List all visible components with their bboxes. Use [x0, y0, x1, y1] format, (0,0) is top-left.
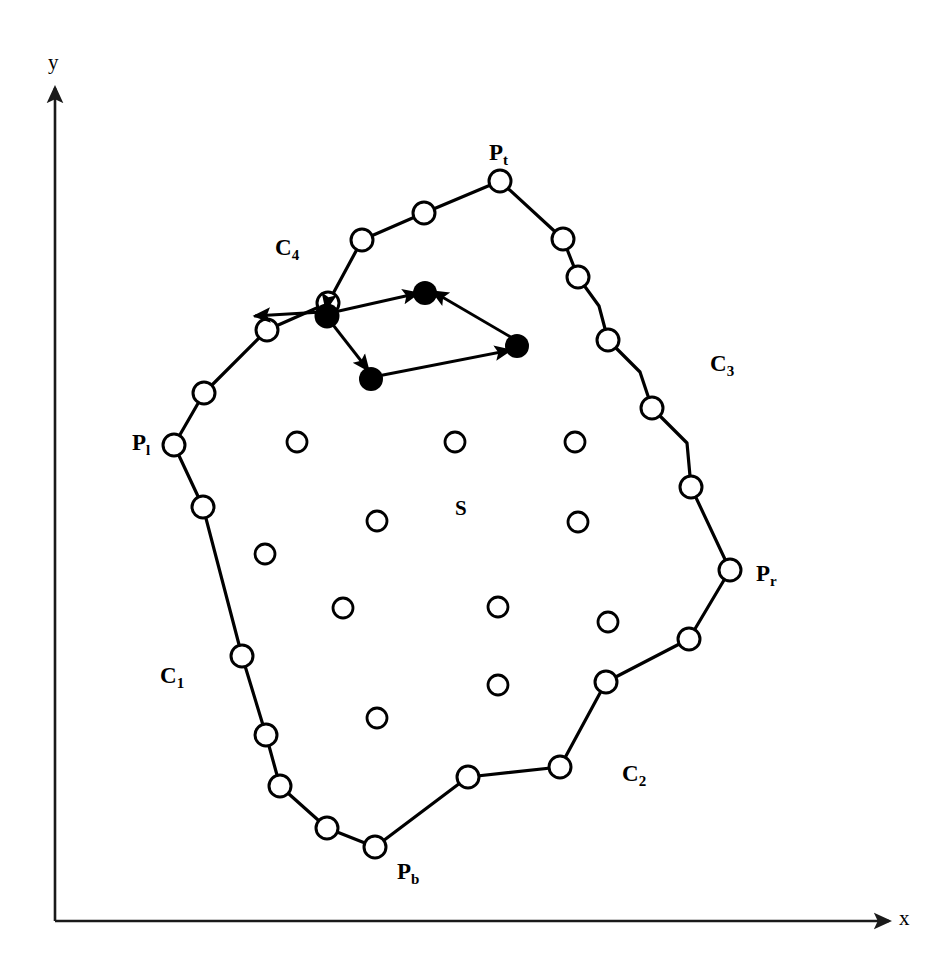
boundary-point [595, 671, 617, 693]
boundary-point [680, 476, 702, 498]
filled-point-v4 [359, 367, 383, 391]
label-chain-c4: C4 [275, 236, 299, 259]
vector-arrow-v1-to-boundary [254, 312, 322, 316]
boundary-point [567, 266, 589, 288]
label-region-s: S [455, 498, 467, 519]
interior-point [287, 432, 307, 452]
label-chain-c1: C1 [160, 664, 184, 687]
label-chain-c4-sub: 4 [292, 247, 300, 263]
vector-arrow-v1-v4 [330, 321, 369, 371]
boundary-point-pl [163, 434, 185, 456]
boundary-point [316, 817, 338, 839]
filled-point-v1 [315, 304, 340, 329]
label-point-pt: Pt [489, 141, 508, 164]
label-point-pb-sub: b [411, 871, 419, 887]
label-chain-c2: C2 [622, 762, 646, 785]
boundary-point [256, 319, 278, 341]
label-chain-c3-base: C [710, 351, 727, 376]
boundary-point-pt [489, 170, 511, 192]
label-point-pb: Pb [397, 860, 419, 883]
boundary-point [597, 329, 619, 351]
interior-point [445, 432, 465, 452]
set-boundary-group [174, 181, 730, 847]
filled-point-v3 [505, 334, 529, 358]
vector-arrow-v4-v3 [378, 350, 511, 376]
filled-point-markers [315, 281, 530, 391]
filled-point-v2 [413, 281, 437, 305]
boundary-point [193, 382, 215, 404]
set-boundary-polygon [174, 181, 730, 847]
boundary-point-markers [163, 170, 741, 858]
boundary-point [552, 228, 574, 250]
interior-point [565, 432, 585, 452]
axis-group [55, 88, 889, 921]
label-chain-c2-base: C [622, 761, 639, 786]
label-point-pl-sub: l [146, 442, 150, 458]
interior-point [333, 598, 353, 618]
boundary-point [231, 645, 253, 667]
label-point-pr-sub: r [770, 573, 777, 589]
label-point-pr: Pr [756, 562, 777, 585]
boundary-point [269, 775, 291, 797]
interior-point [488, 597, 508, 617]
boundary-point [192, 496, 214, 518]
interior-point [367, 708, 387, 728]
label-point-pl-base: P [132, 430, 146, 455]
boundary-point [549, 756, 571, 778]
y-axis-label: y [48, 52, 59, 73]
label-chain-c3-sub: 3 [727, 363, 735, 379]
interior-point-markers [255, 432, 618, 728]
interior-point [488, 675, 508, 695]
vector-arrow-v3-v2 [432, 291, 514, 339]
label-point-pb-base: P [397, 859, 411, 884]
boundary-point [641, 397, 663, 419]
interior-point [255, 544, 275, 564]
label-point-pr-base: P [756, 561, 770, 586]
x-axis-label: x [899, 908, 910, 929]
interior-point [367, 511, 387, 531]
label-chain-c2-sub: 2 [639, 773, 647, 789]
interior-point [598, 612, 618, 632]
label-chain-c3: C3 [710, 352, 734, 375]
label-point-pt-sub: t [503, 152, 508, 168]
vector-arrow-group [254, 291, 514, 376]
diagram-svg [0, 0, 952, 969]
label-point-pt-base: P [489, 140, 503, 165]
label-point-pl: Pl [132, 431, 150, 454]
label-chain-c1-base: C [160, 663, 177, 688]
figure-canvas: y x Pt Pr Pb Pl C1 C2 C3 C4 S [0, 0, 952, 969]
interior-point [568, 512, 588, 532]
label-chain-c4-base: C [275, 235, 292, 260]
boundary-point [413, 202, 435, 224]
boundary-point [457, 766, 479, 788]
boundary-point-pb [364, 836, 386, 858]
boundary-point [351, 229, 373, 251]
label-chain-c1-sub: 1 [177, 675, 185, 691]
boundary-point [255, 724, 277, 746]
boundary-point [678, 628, 700, 650]
vector-arrow-v1-v2 [330, 293, 419, 313]
boundary-point-pr [719, 559, 741, 581]
